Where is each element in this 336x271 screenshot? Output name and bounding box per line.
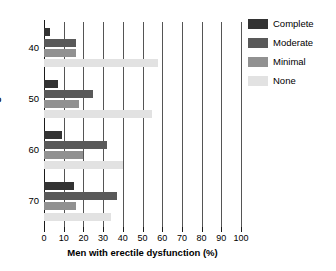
legend-swatch-none [248, 76, 268, 86]
bar-moderate-age-40 [44, 39, 76, 47]
x-axis-title: Men with erectile dysfunction (%) [0, 247, 285, 258]
gridline-100 [241, 22, 242, 227]
bar-none-age-40 [44, 59, 158, 67]
chart-figure: 0102030405060708090100 Men with erectile… [0, 0, 336, 271]
gridline-90 [221, 22, 222, 227]
chart-legend: CompleteModerateMinimalNone [248, 14, 334, 90]
x-tick-30 [103, 227, 104, 232]
x-tick-20 [83, 227, 84, 232]
x-tick-label-80: 80 [191, 233, 213, 244]
gridline-40 [123, 22, 124, 227]
legend-item-complete[interactable]: Complete [248, 14, 334, 33]
bar-minimal-age-60 [44, 151, 83, 159]
bar-complete-age-50 [44, 80, 58, 88]
legend-label-minimal: Minimal [273, 56, 306, 67]
y-tick-label-40: 40 [12, 42, 39, 53]
x-tick-label-10: 10 [53, 233, 75, 244]
legend-label-moderate: Moderate [273, 37, 313, 48]
plot-area [44, 22, 241, 227]
bar-none-age-70 [44, 213, 111, 221]
x-tick-50 [143, 227, 144, 232]
x-tick-100 [241, 227, 242, 232]
gridline-50 [143, 22, 144, 227]
y-tick-label-50: 50 [12, 93, 39, 104]
legend-swatch-moderate [248, 38, 268, 48]
x-tick-label-70: 70 [171, 233, 193, 244]
bar-moderate-age-50 [44, 90, 93, 98]
x-tick-label-90: 90 [210, 233, 232, 244]
bar-minimal-age-70 [44, 202, 76, 210]
legend-label-none: None [273, 75, 296, 86]
bar-complete-age-60 [44, 131, 62, 139]
x-tick-0 [44, 227, 45, 232]
gridline-80 [202, 22, 203, 227]
bar-complete-age-40 [44, 28, 50, 36]
x-tick-label-0: 0 [33, 233, 55, 244]
x-tick-label-60: 60 [151, 233, 173, 244]
bar-none-age-60 [44, 161, 123, 169]
legend-swatch-minimal [248, 57, 268, 67]
y-tick-label-60: 60 [12, 144, 39, 155]
legend-item-minimal[interactable]: Minimal [248, 52, 334, 71]
x-tick-90 [221, 227, 222, 232]
legend-item-none[interactable]: None [248, 71, 334, 90]
gridline-60 [162, 22, 163, 227]
x-tick-70 [182, 227, 183, 232]
x-tick-label-100: 100 [230, 233, 252, 244]
y-axis-title: Age [0, 91, 1, 110]
bar-minimal-age-40 [44, 49, 76, 57]
legend-item-moderate[interactable]: Moderate [248, 33, 334, 52]
x-tick-label-30: 30 [92, 233, 114, 244]
gridline-70 [182, 22, 183, 227]
x-tick-10 [64, 227, 65, 232]
bar-moderate-age-60 [44, 141, 107, 149]
y-tick-label-70: 70 [12, 195, 39, 206]
bar-moderate-age-70 [44, 192, 117, 200]
x-tick-label-40: 40 [112, 233, 134, 244]
x-tick-40 [123, 227, 124, 232]
bar-complete-age-70 [44, 182, 74, 190]
bar-none-age-50 [44, 110, 152, 118]
legend-swatch-complete [248, 19, 268, 29]
bar-minimal-age-50 [44, 100, 79, 108]
x-tick-label-20: 20 [72, 233, 94, 244]
legend-label-complete: Complete [273, 18, 314, 29]
x-tick-label-50: 50 [132, 233, 154, 244]
x-tick-60 [162, 227, 163, 232]
x-tick-80 [202, 227, 203, 232]
